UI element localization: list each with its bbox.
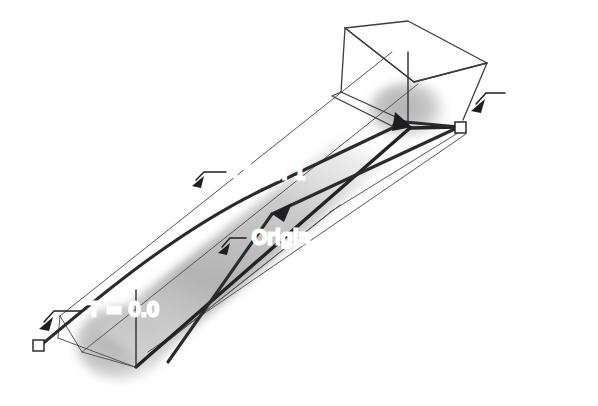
annotation-t-upper-right: T = 0.0 bbox=[471, 80, 582, 114]
t-lower-left-label: T = 0.0 bbox=[87, 298, 159, 320]
endpoint-square-lower-left[interactable] bbox=[33, 340, 44, 351]
chain-1-leader-line bbox=[196, 172, 226, 180]
plane-diagonal bbox=[345, 28, 414, 82]
endpoint-square-upper-right[interactable] bbox=[455, 122, 466, 133]
box-connector-near-left bbox=[58, 316, 60, 338]
t-upper-right-leader-line bbox=[476, 93, 505, 104]
t-upper-right-label: T = 0.0 bbox=[510, 80, 582, 102]
chain-1-label: Chain 1 bbox=[232, 161, 306, 183]
origin-label: Origin bbox=[252, 226, 311, 248]
plane-lower-edge bbox=[414, 63, 487, 82]
figure-root: Chain 1 Origin T = 0.0 T = 0.0 bbox=[0, 0, 598, 406]
technical-diagram-svg: Chain 1 Origin T = 0.0 T = 0.0 bbox=[0, 0, 598, 406]
